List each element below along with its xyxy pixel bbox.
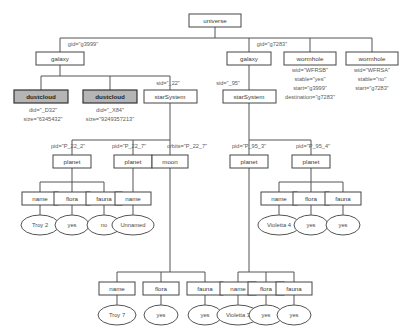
value-name-p22-7-label: Troy 7 [109, 312, 125, 318]
value-fauna-p95-3-label: yes [338, 222, 347, 228]
attrs-wormhole-b: wid="WFRSB" stable="yes" start="g3999" d… [285, 67, 335, 100]
value-flora-p95-4-label: yes [261, 312, 270, 318]
node-flora-p22-7-label: flora [155, 285, 168, 292]
svg-text:wid="WFRSA": wid="WFRSA" [353, 67, 390, 73]
edge-label-pid-22-7: pid="P_22_7" [112, 143, 146, 149]
node-moon-22-7-label: moon [162, 158, 178, 165]
node-fauna-p95-4[interactable]: fauna [276, 282, 312, 295]
edge-label-sid-22: sid="_22" [156, 80, 180, 86]
svg-text:destination="g7283": destination="g7283" [285, 94, 335, 100]
node-planet-22-2[interactable]: planet [53, 155, 91, 168]
edge-label-pid-22-2: pid="P_22_2" [51, 143, 85, 149]
svg-text:pid="P_95_4": pid="P_95_4" [296, 143, 330, 149]
svg-text:orbits="P_22_7": orbits="P_22_7" [167, 143, 207, 149]
edge-label-pid-95-4: pid="P_95_4" [296, 143, 330, 149]
node-flora-p95-3[interactable]: flora [293, 192, 329, 205]
value-fauna-p22-2-label: no [101, 222, 107, 228]
node-galaxy-left[interactable]: galaxy [36, 52, 84, 65]
attrs-dustcloud-2: did="_X84" size="9249357213" [86, 107, 134, 122]
svg-text:gid="g7283": gid="g7283" [257, 41, 287, 47]
node-galaxy-right[interactable]: galaxy [227, 52, 271, 65]
value-flora-p95-3-label: yes [306, 222, 315, 228]
node-starsystem-95[interactable]: starSystem [223, 90, 276, 103]
node-name-p95-4-label: name [230, 285, 246, 292]
node-flora-p22-7[interactable]: flora [143, 282, 179, 295]
value-fauna-p22-7-label: yes [200, 312, 209, 318]
node-fauna-p22-7[interactable]: fauna [187, 282, 223, 295]
svg-text:size="6345432": size="6345432" [24, 116, 63, 122]
node-galaxy-left-label: galaxy [51, 55, 70, 62]
value-fauna-p95-4-label: yes [289, 312, 298, 318]
svg-text:size="9249357213": size="9249357213" [86, 116, 134, 122]
node-wormhole-a[interactable]: wormhole [346, 52, 398, 65]
svg-text:did="_X84": did="_X84" [96, 107, 124, 113]
svg-text:stable="no": stable="no" [358, 76, 386, 82]
node-planet-95-4[interactable]: planet [292, 155, 330, 168]
svg-text:stable="yes": stable="yes" [295, 76, 326, 82]
node-flora-p95-3-label: flora [305, 195, 318, 202]
node-planet-95-4-label: planet [303, 158, 320, 165]
node-flora-p95-4-label: flora [260, 285, 273, 292]
edge-label-gid-right: gid="g7283" [257, 41, 287, 47]
svg-text:sid="_22": sid="_22" [156, 80, 180, 86]
value-flora-p22-2-label: yes [67, 222, 76, 228]
value-name-p95-4-label: Violetta 3 [226, 312, 250, 318]
diagram-canvas: universe galaxy galaxy wormhole wormhole… [0, 0, 402, 336]
value-name-p22-2[interactable]: Troy 2 [21, 215, 59, 235]
node-flora-p22-2-label: flora [66, 195, 79, 202]
node-name-moon[interactable]: name [115, 192, 151, 205]
value-flora-p22-7-label: yes [156, 312, 165, 318]
attrs-dustcloud-1: did="_D32" size="6345432" [24, 107, 63, 122]
value-flora-p22-7[interactable]: yes [144, 305, 178, 325]
node-moon-22-7[interactable]: moon [152, 155, 188, 168]
node-name-p95-3-label: name [271, 195, 287, 202]
node-starsystem-95-label: starSystem [234, 93, 265, 100]
value-name-p95-3-label: Violetta 4 [267, 222, 292, 228]
edge-label-gid-left: gid="g3999" [68, 41, 98, 47]
node-fauna-p95-4-label: fauna [286, 285, 302, 292]
value-flora-p95-3[interactable]: yes [294, 215, 328, 235]
svg-text:did="_D32": did="_D32" [29, 107, 57, 113]
node-flora-p22-2[interactable]: flora [54, 192, 90, 205]
svg-text:gid="g3999": gid="g3999" [68, 41, 98, 47]
node-fauna-p95-3-label: fauna [335, 195, 351, 202]
node-name-p22-7-label: name [109, 285, 125, 292]
node-starsystem-22-label: starSystem [155, 93, 186, 100]
value-name-p22-7[interactable]: Troy 7 [98, 305, 136, 325]
node-name-p22-7[interactable]: name [99, 282, 135, 295]
node-universe-label: universe [203, 17, 227, 24]
node-starsystem-22[interactable]: starSystem [144, 90, 197, 103]
svg-text:start="g7283": start="g7283" [355, 85, 389, 91]
node-dustcloud-2[interactable]: dustcloud [83, 90, 137, 103]
node-planet-22-2-label: planet [64, 158, 81, 165]
node-dustcloud-1[interactable]: dustcloud [14, 90, 68, 103]
svg-text:pid="P_22_2": pid="P_22_2" [51, 143, 85, 149]
node-planet-95-3-label: planet [241, 158, 258, 165]
node-dustcloud-1-label: dustcloud [26, 93, 56, 100]
node-name-p22-2-label: name [32, 195, 48, 202]
edge-label-orbits-22-7: orbits="P_22_7" [167, 143, 207, 149]
value-fauna-p95-3[interactable]: yes [326, 215, 360, 235]
node-universe[interactable]: universe [189, 14, 241, 27]
node-name-p22-2[interactable]: name [22, 192, 58, 205]
node-dustcloud-2-label: dustcloud [95, 93, 125, 100]
value-name-moon-label: Unnamed [120, 222, 145, 228]
value-flora-p22-2[interactable]: yes [55, 215, 89, 235]
edge-label-pid-95-3: pid="P_95_3" [232, 143, 266, 149]
node-fauna-p22-2-label: fauna [96, 195, 112, 202]
node-wormhole-b[interactable]: wormhole [284, 52, 336, 65]
svg-text:start="g3999": start="g3999" [293, 85, 327, 91]
node-fauna-p95-3[interactable]: fauna [325, 192, 361, 205]
node-planet-95-3[interactable]: planet [230, 155, 268, 168]
value-fauna-p95-4[interactable]: yes [277, 305, 311, 325]
value-name-p22-2-label: Troy 2 [32, 222, 48, 228]
svg-text:pid="P_95_3": pid="P_95_3" [232, 143, 266, 149]
node-name-p95-3[interactable]: name [261, 192, 297, 205]
attrs-wormhole-a: wid="WFRSA" stable="no" start="g7283" [353, 67, 390, 91]
edge-label-sid-95: sid="_95" [216, 80, 240, 86]
node-planet-22-7-label: planet [125, 158, 142, 165]
value-name-moon[interactable]: Unnamed [112, 215, 154, 235]
node-wormhole-b-label: wormhole [296, 55, 324, 62]
node-planet-22-7[interactable]: planet [114, 155, 152, 168]
svg-text:pid="P_22_7": pid="P_22_7" [112, 143, 146, 149]
